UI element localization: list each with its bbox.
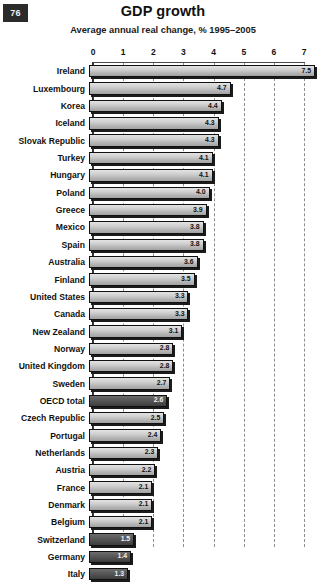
bar-row: Germany1.4 <box>0 549 326 566</box>
category-label-oecd-total: OECD total <box>0 397 89 406</box>
bar-track: 2.8 <box>89 341 322 358</box>
bar-united-kingdom: 2.8 <box>89 360 173 372</box>
bar-value-label: 3.3 <box>175 311 188 318</box>
page-title: GDP growth <box>0 3 326 19</box>
bar-slovak-republic: 4.3 <box>89 134 219 146</box>
category-label-austria: Austria <box>0 466 89 475</box>
bar-value-label: 3.8 <box>190 241 203 248</box>
category-label-australia: Australia <box>0 258 89 267</box>
category-label-hungary: Hungary <box>0 171 89 180</box>
bar-canada: 3.3 <box>89 308 188 320</box>
bar-value-label: 3.9 <box>193 207 206 214</box>
category-label-mexico: Mexico <box>0 223 89 232</box>
bar-value-label: 3.6 <box>184 259 197 266</box>
category-label-germany: Germany <box>0 553 89 562</box>
bar-row: Norway2.8 <box>0 341 326 358</box>
bar-row: Portugal2.4 <box>0 427 326 444</box>
bar-track: 4.0 <box>89 184 322 201</box>
category-label-spain: Spain <box>0 241 89 250</box>
category-label-iceland: Iceland <box>0 119 89 128</box>
x-tick-0: 0 <box>91 47 96 57</box>
bar-value-label: 4.1 <box>199 172 212 179</box>
bar-value-label: 2.1 <box>139 501 152 508</box>
bar-value-label: 2.1 <box>139 519 152 526</box>
bar-value-label: 2.2 <box>142 467 155 474</box>
bar-value-label: 2.8 <box>160 345 173 352</box>
bar-oecd-total: 2.6 <box>89 395 167 407</box>
bar-sweden: 2.7 <box>89 377 170 389</box>
bar-value-label: 2.6 <box>154 397 167 404</box>
bar-row: Turkey4.1 <box>0 150 326 167</box>
bar-luxembourg: 4.7 <box>89 82 231 94</box>
bar-netherlands: 2.3 <box>89 447 158 459</box>
bar-row: France2.1 <box>0 479 326 496</box>
bar-row: Korea4.4 <box>0 98 326 115</box>
bar-switzerland: 1.5 <box>89 533 134 545</box>
category-label-italy: Italy <box>0 570 89 579</box>
x-axis-tick-labels: 01234567 <box>0 47 326 61</box>
bar-track: 4.3 <box>89 132 322 149</box>
bar-track: 2.1 <box>89 479 322 496</box>
bar-value-label: 4.1 <box>199 155 212 162</box>
bar-norway: 2.8 <box>89 343 173 355</box>
x-tick-1: 1 <box>121 47 126 57</box>
bar-value-label: 2.1 <box>139 484 152 491</box>
bar-value-label: 7.5 <box>302 68 315 75</box>
bar-track: 4.4 <box>89 98 322 115</box>
bar-track: 3.8 <box>89 219 322 236</box>
bar-hungary: 4.1 <box>89 169 213 181</box>
x-tick-6: 6 <box>272 47 277 57</box>
bar-value-label: 3.3 <box>175 293 188 300</box>
bar-row: United Kingdom2.8 <box>0 358 326 375</box>
bar-track: 7.5 <box>89 63 322 80</box>
chart-subtitle: Average annual real change, % 1995–2005 <box>0 25 326 35</box>
bar-italy: 1.3 <box>89 568 128 580</box>
bar-value-label: 4.7 <box>217 85 230 92</box>
category-label-norway: Norway <box>0 345 89 354</box>
bar-track: 2.5 <box>89 410 322 427</box>
bar-track: 2.4 <box>89 427 322 444</box>
bar-row: Australia3.6 <box>0 254 326 271</box>
bar-track: 4.7 <box>89 80 322 97</box>
bar-korea: 4.4 <box>89 100 222 112</box>
bar-track: 1.4 <box>89 549 322 566</box>
bar-row: Switzerland1.5 <box>0 531 326 548</box>
bar-track: 3.3 <box>89 288 322 305</box>
bar-australia: 3.6 <box>89 256 198 268</box>
bar-value-label: 4.4 <box>208 103 221 110</box>
bar-czech-republic: 2.5 <box>89 412 164 424</box>
bar-row: Luxembourg4.7 <box>0 80 326 97</box>
bar-row: New Zealand3.1 <box>0 323 326 340</box>
category-label-sweden: Sweden <box>0 380 89 389</box>
x-tick-2: 2 <box>151 47 156 57</box>
bar-track: 4.1 <box>89 150 322 167</box>
bar-germany: 1.4 <box>89 551 131 563</box>
category-label-greece: Greece <box>0 206 89 215</box>
category-label-korea: Korea <box>0 102 89 111</box>
bar-value-label: 2.8 <box>160 363 173 370</box>
category-label-united-kingdom: United Kingdom <box>0 362 89 371</box>
bar-row: Mexico3.8 <box>0 219 326 236</box>
bar-row: Greece3.9 <box>0 202 326 219</box>
bar-value-label: 4.3 <box>205 137 218 144</box>
bar-value-label: 3.8 <box>190 224 203 231</box>
bar-greece: 3.9 <box>89 204 207 216</box>
bar-row: Netherlands2.3 <box>0 445 326 462</box>
bar-portugal: 2.4 <box>89 429 161 441</box>
bar-track: 2.8 <box>89 358 322 375</box>
bar-track: 3.6 <box>89 254 322 271</box>
bar-france: 2.1 <box>89 481 152 493</box>
bar-row: Poland4.0 <box>0 184 326 201</box>
bar-row: Belgium2.1 <box>0 514 326 531</box>
bar-value-label: 3.5 <box>181 276 194 283</box>
x-tick-5: 5 <box>241 47 246 57</box>
bar-row: Hungary4.1 <box>0 167 326 184</box>
bar-value-label: 2.4 <box>148 432 161 439</box>
bar-denmark: 2.1 <box>89 499 152 511</box>
bar-value-label: 1.3 <box>115 571 128 578</box>
bar-track: 2.6 <box>89 393 322 410</box>
category-label-switzerland: Switzerland <box>0 536 89 545</box>
bar-track: 3.1 <box>89 323 322 340</box>
category-label-czech-republic: Czech Republic <box>0 414 89 423</box>
